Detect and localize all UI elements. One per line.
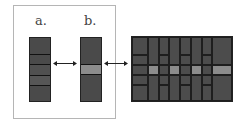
grid-cell-highlight <box>169 65 180 75</box>
grid-cell <box>169 37 180 65</box>
label-b: b. <box>84 14 96 27</box>
bar-a-segment <box>30 65 50 75</box>
grid-cell <box>159 75 169 85</box>
grid-cell <box>180 55 191 65</box>
grid-cell <box>202 85 212 101</box>
grid-cell <box>202 55 212 65</box>
grid-cell-highlight <box>148 65 159 75</box>
bar-a-segment <box>30 76 50 85</box>
grid-cell <box>148 75 159 101</box>
grid-cell <box>159 65 169 75</box>
bar-b <box>80 37 102 102</box>
double-arrow-icon <box>104 60 128 67</box>
grid-cell <box>191 75 202 101</box>
bar-a <box>29 37 51 102</box>
grid-cell <box>191 37 202 65</box>
grid-cell <box>132 85 148 101</box>
grid-cell <box>212 37 232 65</box>
grid-cell <box>148 37 159 65</box>
bar-a-divider <box>30 54 50 55</box>
label-a: a. <box>35 14 47 27</box>
grid-cell <box>132 37 148 55</box>
grid-cell <box>202 37 212 55</box>
grid-cell <box>132 75 148 85</box>
grid-cell <box>132 65 148 75</box>
bar-a-divider <box>30 85 50 86</box>
grid-cell <box>180 75 191 85</box>
grid-cell <box>132 55 148 65</box>
grid-cell <box>202 75 212 85</box>
bar-b-divider <box>81 74 101 75</box>
bar-b-highlight-segment <box>81 65 101 74</box>
grid-cell <box>159 85 169 101</box>
grid <box>131 36 233 102</box>
grid-cell <box>212 75 232 101</box>
grid-cell <box>180 65 191 75</box>
grid-cell <box>202 65 212 75</box>
grid-cell <box>180 85 191 101</box>
grid-cell <box>159 55 169 65</box>
double-arrow-icon <box>53 60 77 67</box>
grid-cell-highlight <box>212 65 232 75</box>
grid-cell <box>180 37 191 55</box>
grid-cell <box>169 75 180 101</box>
grid-cell <box>159 37 169 55</box>
grid-cell-highlight <box>191 65 202 75</box>
